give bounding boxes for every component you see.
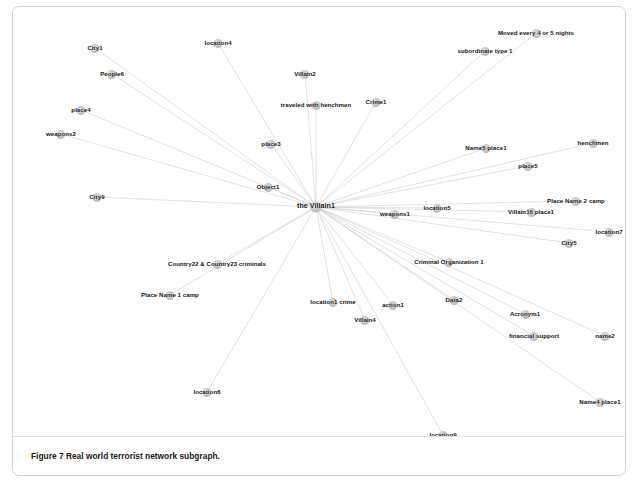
node-label: Country22 & Country23 criminals <box>168 261 266 267</box>
network-graph-canvas: the Villain1City1location4Moved every 4 … <box>13 7 625 437</box>
graph-node[interactable]: Place Name 1 camp <box>141 292 199 298</box>
figure-caption: Figure 7 Real world terrorist network su… <box>13 451 220 461</box>
graph-node[interactable]: location4 <box>204 40 231 46</box>
graph-node[interactable]: City5 <box>561 240 576 246</box>
graph-edge <box>316 207 600 402</box>
graph-node[interactable]: subordinate type 1 <box>457 48 512 54</box>
graph-node[interactable]: Place Name 2 camp <box>547 198 605 204</box>
graph-edge <box>316 207 393 305</box>
node-label: traveled with henchmen <box>281 102 352 108</box>
graph-node[interactable]: Criminal Organization 1 <box>414 259 484 265</box>
node-label: financial support <box>509 333 559 339</box>
graph-node[interactable]: Villain16 place1 <box>508 209 554 215</box>
node-label: Villain16 place1 <box>508 209 554 215</box>
graph-node[interactable]: Data2 <box>446 297 463 303</box>
node-label: name2 <box>595 333 615 339</box>
node-label: subordinate type 1 <box>457 48 512 54</box>
graph-edge <box>112 74 316 207</box>
graph-edge <box>217 207 316 264</box>
graph-node[interactable]: weapons1 <box>380 211 410 217</box>
figure-panel: the Villain1City1location4Moved every 4 … <box>12 6 626 476</box>
graph-node[interactable]: name2 <box>595 333 615 339</box>
node-label: People6 <box>100 71 124 77</box>
node-label: Acronym1 <box>510 311 540 317</box>
node-label: Crime1 <box>366 99 387 105</box>
node-label: location7 <box>595 229 622 235</box>
node-label: Moved every 4 or 5 nights <box>498 30 574 36</box>
graph-node[interactable]: location5 <box>423 205 450 211</box>
node-label: City5 <box>561 240 576 246</box>
graph-node[interactable]: Villain4 <box>354 317 376 323</box>
graph-edge <box>316 166 528 207</box>
node-label: location4 <box>204 40 231 46</box>
graph-edge <box>170 207 316 295</box>
figure-caption-bar: Figure 7 Real world terrorist network su… <box>13 436 625 475</box>
node-label: location1 crime <box>310 299 355 305</box>
graph-node[interactable]: action1 <box>382 302 404 308</box>
graph-node[interactable]: location1 crime <box>310 299 355 305</box>
graph-edge <box>316 51 485 207</box>
node-label: Villain2 <box>294 71 316 77</box>
graph-node[interactable]: place4 <box>71 107 90 113</box>
node-label: henchmen <box>578 140 609 146</box>
graph-edge <box>316 207 333 302</box>
node-label: Criminal Organization 1 <box>414 259 484 265</box>
node-label: City9 <box>89 194 104 200</box>
graph-edge <box>316 148 486 207</box>
graph-node[interactable]: place3 <box>261 141 280 147</box>
graph-node[interactable]: City9 <box>89 194 104 200</box>
node-label: place3 <box>261 141 280 147</box>
node-label: location5 <box>423 205 450 211</box>
graph-node[interactable]: Moved every 4 or 5 nights <box>498 30 574 36</box>
graph-node[interactable]: financial support <box>509 333 559 339</box>
graph-edge <box>316 207 609 232</box>
node-label: place5 <box>518 163 537 169</box>
figure-number: Figure 7 <box>31 451 64 461</box>
node-label: action1 <box>382 302 404 308</box>
node-label: Place Name 2 camp <box>547 198 605 204</box>
graph-node[interactable]: Name5 place1 <box>465 145 506 151</box>
graph-edge <box>316 207 443 435</box>
node-label: weapons1 <box>380 211 410 217</box>
graph-edge <box>207 207 316 392</box>
figure-caption-text: Real world terrorist network subgraph. <box>66 451 220 461</box>
graph-edge <box>316 33 536 207</box>
graph-node[interactable]: Crime1 <box>366 99 387 105</box>
graph-node[interactable]: Name4 place1 <box>579 399 620 405</box>
graph-node[interactable]: Object1 <box>257 184 280 190</box>
graph-node[interactable]: People6 <box>100 71 124 77</box>
graph-node[interactable]: the Villain1 <box>297 203 335 210</box>
node-label: City1 <box>87 45 102 51</box>
node-label: Place Name 1 camp <box>141 292 199 298</box>
node-label: Name5 place1 <box>465 145 506 151</box>
node-label: place4 <box>71 107 90 113</box>
graph-edge <box>95 48 316 207</box>
graph-edge <box>97 197 316 207</box>
node-label: the Villain1 <box>297 203 335 210</box>
node-label: Data2 <box>446 297 463 303</box>
graph-node[interactable]: City1 <box>87 45 102 51</box>
node-label: Villain4 <box>354 317 376 323</box>
graph-node[interactable]: weapons2 <box>46 131 76 137</box>
node-label: Name4 place1 <box>579 399 620 405</box>
graph-node[interactable]: traveled with henchmen <box>281 102 352 108</box>
node-label: Object1 <box>257 184 280 190</box>
graph-edge <box>305 74 316 207</box>
node-label: location6 <box>193 389 220 395</box>
graph-node[interactable]: henchmen <box>578 140 609 146</box>
node-label: weapons2 <box>46 131 76 137</box>
graph-node[interactable]: location6 <box>193 389 220 395</box>
graph-node[interactable]: Country22 & Country23 criminals <box>168 261 266 267</box>
graph-edge <box>316 102 376 207</box>
graph-node[interactable]: place5 <box>518 163 537 169</box>
graph-node[interactable]: location7 <box>595 229 622 235</box>
graph-edge <box>316 207 534 336</box>
graph-node[interactable]: Villain2 <box>294 71 316 77</box>
graph-node[interactable]: Acronym1 <box>510 311 540 317</box>
